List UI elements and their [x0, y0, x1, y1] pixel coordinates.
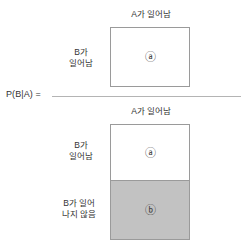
denominator-cell-b-not-occurs: ⓑ [111, 181, 189, 239]
numerator-marker-a: ⓐ [145, 52, 156, 63]
denominator-marker-a: ⓐ [145, 147, 156, 158]
denominator-lower-side-label: B가 일어 나지 않음 [50, 198, 108, 220]
denominator-box: ⓐ ⓑ [110, 124, 190, 240]
numerator-side-label: B가 일어남 [56, 47, 106, 69]
numerator-top-label: A가 일어남 [110, 9, 192, 20]
denominator-marker-b: ⓑ [145, 205, 156, 216]
denominator-cell-b-occurs: ⓐ [111, 125, 189, 181]
denominator-top-label: A가 일어남 [110, 106, 192, 117]
numerator-box: ⓐ [110, 27, 190, 87]
denominator-upper-side-label: B가 일어남 [56, 140, 106, 162]
fraction-bar [52, 96, 241, 97]
conditional-probability-diagram: A가 일어남 B가 일어남 ⓐ P(B|A) = A가 일어남 B가 일어남 B… [0, 0, 249, 247]
formula-label: P(B|A) = [6, 89, 41, 99]
